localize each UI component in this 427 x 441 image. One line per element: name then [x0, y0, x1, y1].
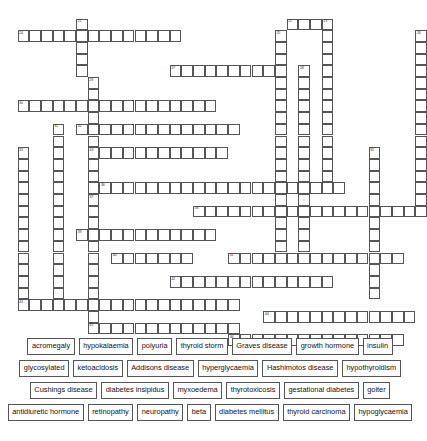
grid-cell[interactable]	[170, 147, 182, 159]
grid-cell[interactable]	[18, 276, 30, 288]
word-bank-item[interactable]: goiter	[363, 382, 391, 399]
grid-cell[interactable]	[240, 253, 252, 265]
grid-cell[interactable]	[322, 124, 334, 136]
grid-cell[interactable]	[88, 217, 100, 229]
grid-cell[interactable]	[404, 311, 416, 323]
grid-cell[interactable]	[298, 112, 310, 124]
grid-cell[interactable]	[158, 30, 170, 42]
grid-cell[interactable]	[53, 276, 65, 288]
grid-cell[interactable]	[322, 206, 334, 218]
grid-cell[interactable]	[135, 30, 147, 42]
grid-cell[interactable]	[369, 194, 381, 206]
grid-cell[interactable]	[123, 229, 135, 241]
grid-cell[interactable]	[205, 276, 217, 288]
grid-cell[interactable]	[64, 100, 76, 112]
grid-cell[interactable]	[228, 206, 240, 218]
word-bank-item[interactable]: glycosylated	[19, 360, 69, 377]
word-bank-item[interactable]: ketoacidosis	[73, 360, 123, 377]
grid-cell[interactable]	[88, 206, 100, 218]
grid-cell-start-25[interactable]: 25	[275, 30, 287, 42]
grid-cell[interactable]	[111, 147, 123, 159]
grid-cell[interactable]	[135, 100, 147, 112]
grid-cell[interactable]	[205, 147, 217, 159]
grid-cell[interactable]	[88, 124, 100, 136]
grid-cell[interactable]	[369, 241, 381, 253]
grid-cell[interactable]	[18, 229, 30, 241]
word-bank-item[interactable]: acromegaly	[27, 338, 74, 355]
grid-cell[interactable]	[392, 206, 404, 218]
grid-cell[interactable]	[322, 182, 334, 194]
grid-cell[interactable]	[287, 276, 299, 288]
grid-cell[interactable]	[111, 124, 123, 136]
grid-cell[interactable]	[275, 311, 287, 323]
grid-cell[interactable]	[252, 65, 264, 77]
grid-cell[interactable]	[123, 299, 135, 311]
grid-cell[interactable]	[298, 89, 310, 101]
grid-cell[interactable]	[275, 241, 287, 253]
grid-cell[interactable]	[310, 276, 322, 288]
grid-cell[interactable]	[146, 182, 158, 194]
grid-cell[interactable]	[263, 253, 275, 265]
word-bank-item[interactable]: polyuria	[137, 338, 172, 355]
grid-cell[interactable]	[415, 194, 427, 206]
grid-cell[interactable]	[99, 147, 111, 159]
grid-cell[interactable]	[181, 182, 193, 194]
grid-cell[interactable]	[322, 171, 334, 183]
grid-cell[interactable]	[298, 100, 310, 112]
grid-cell[interactable]	[158, 229, 170, 241]
grid-cell[interactable]	[415, 124, 427, 136]
grid-cell[interactable]	[275, 147, 287, 159]
grid-cell-start-39[interactable]: 39	[76, 229, 88, 241]
grid-cell[interactable]	[135, 124, 147, 136]
grid-cell[interactable]	[415, 171, 427, 183]
grid-cell[interactable]	[322, 147, 334, 159]
word-bank-item[interactable]: thyroid storm	[176, 338, 228, 355]
grid-cell[interactable]	[181, 147, 193, 159]
grid-cell[interactable]	[380, 253, 392, 265]
grid-cell[interactable]	[275, 229, 287, 241]
grid-cell-start-31[interactable]: 31	[53, 124, 65, 136]
grid-cell[interactable]	[298, 136, 310, 148]
grid-cell[interactable]	[333, 253, 345, 265]
grid-cell[interactable]	[76, 30, 88, 42]
grid-cell[interactable]	[53, 100, 65, 112]
grid-cell[interactable]	[240, 182, 252, 194]
grid-cell[interactable]	[263, 206, 275, 218]
grid-cell[interactable]	[357, 206, 369, 218]
word-bank-item[interactable]: beta	[187, 404, 210, 421]
grid-cell[interactable]	[240, 65, 252, 77]
grid-cell[interactable]	[333, 182, 345, 194]
grid-cell[interactable]	[88, 182, 100, 194]
grid-cell[interactable]	[76, 42, 88, 54]
grid-cell[interactable]	[111, 229, 123, 241]
grid-cell[interactable]	[170, 323, 182, 335]
word-bank-item[interactable]: gestational diabetes	[284, 382, 359, 399]
grid-cell[interactable]	[298, 241, 310, 253]
grid-cell[interactable]	[181, 229, 193, 241]
grid-cell[interactable]	[357, 253, 369, 265]
grid-cell[interactable]	[18, 206, 30, 218]
grid-cell[interactable]	[41, 30, 53, 42]
grid-cell[interactable]	[99, 100, 111, 112]
grid-cell[interactable]	[64, 30, 76, 42]
grid-cell[interactable]	[415, 136, 427, 148]
grid-cell[interactable]	[53, 171, 65, 183]
word-bank-item[interactable]: growth hormone	[296, 338, 358, 355]
grid-cell[interactable]	[345, 311, 357, 323]
grid-cell-start-27[interactable]: 27	[170, 65, 182, 77]
grid-cell[interactable]	[345, 253, 357, 265]
word-bank-item[interactable]: Addisons disease	[127, 360, 194, 377]
grid-cell[interactable]	[123, 30, 135, 42]
grid-cell[interactable]	[88, 30, 100, 42]
grid-cell[interactable]	[252, 253, 264, 265]
grid-cell[interactable]	[333, 206, 345, 218]
grid-cell[interactable]	[18, 182, 30, 194]
grid-cell[interactable]	[193, 229, 205, 241]
grid-cell[interactable]	[18, 159, 30, 171]
grid-cell[interactable]	[275, 54, 287, 66]
grid-cell[interactable]	[18, 288, 30, 300]
grid-cell[interactable]	[18, 241, 30, 253]
grid-cell[interactable]	[322, 65, 334, 77]
grid-cell[interactable]	[76, 54, 88, 66]
grid-cell[interactable]	[193, 182, 205, 194]
